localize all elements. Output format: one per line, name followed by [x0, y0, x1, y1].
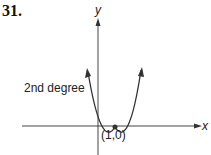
- curve-label: 2nd degree: [24, 81, 85, 95]
- x-axis-label: x: [202, 119, 208, 133]
- y-axis-label: y: [95, 3, 101, 17]
- point-label: (1,0): [101, 128, 126, 142]
- parabola-curve: [88, 70, 141, 132]
